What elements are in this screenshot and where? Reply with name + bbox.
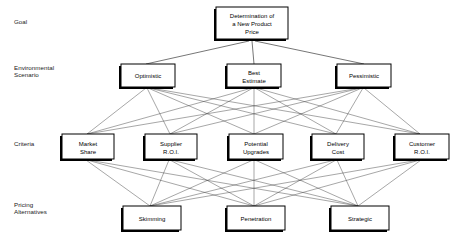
node-market-share-box — [62, 134, 114, 159]
node-goal-line2: a New Product — [232, 21, 272, 27]
node-customer-roi-box — [395, 134, 449, 159]
link-delivery-cost-skimming — [150, 160, 335, 206]
node-skimming-line1: Skimming — [139, 216, 166, 222]
node-goal-line3: Price — [245, 29, 259, 35]
node-customer-roi[interactable]: Customer R.O.I. — [393, 134, 449, 161]
link-market-share-penetration — [87, 160, 254, 206]
link-goal-best-estimate — [252, 41, 254, 64]
node-goal[interactable]: Determination of a New Product Price — [214, 7, 288, 41]
node-penetration-line1: Penetration — [241, 216, 272, 222]
hierarchy-canvas: Goal Environmental Scenario Criteria Pri… — [0, 0, 457, 241]
node-supplier-roi-line1: Supplier — [160, 141, 182, 147]
node-penetration[interactable]: Penetration — [225, 206, 285, 232]
links-goal-to-scenario — [146, 41, 364, 64]
link-supplier-roi-skimming — [150, 160, 169, 206]
node-strategic-line1: Strategic — [348, 216, 372, 222]
node-customer-roi-line1: Customer — [409, 141, 435, 147]
node-goal-line1: Determination of — [230, 13, 275, 19]
link-customer-roi-penetration — [254, 160, 420, 206]
node-supplier-roi[interactable]: Supplier R.O.I. — [143, 134, 197, 161]
node-delivery-cost-line2: Cost — [332, 149, 345, 155]
level-label-goal: Goal — [14, 18, 27, 25]
node-optimistic-line1: Optimistic — [135, 73, 162, 79]
links-market-share-to-alternatives — [86, 160, 358, 206]
node-market-share[interactable]: Market Share — [60, 134, 114, 161]
link-best-estimate-supplier-roi — [170, 88, 253, 134]
level-label-pricing-alternatives-line1: Pricing — [14, 201, 34, 208]
link-supplier-roi-penetration — [170, 160, 254, 206]
link-optimistic-potential-upgrades — [148, 88, 254, 134]
node-delivery-cost-line1: Delivery — [327, 141, 349, 147]
level-label-criteria: Criteria — [14, 140, 35, 147]
links-potential-upgrades-to-alternatives — [150, 160, 358, 206]
node-supplier-roi-line2: R.O.I. — [163, 149, 179, 155]
node-pessimistic[interactable]: Pessimistic — [335, 64, 391, 89]
node-delivery-cost[interactable]: Delivery Cost — [310, 134, 364, 161]
link-pessimistic-delivery-cost — [336, 88, 363, 134]
link-optimistic-supplier-roi — [147, 88, 170, 134]
link-customer-roi-strategic — [358, 160, 421, 206]
node-delivery-cost-box — [312, 134, 364, 159]
level-label-goal-line1: Goal — [14, 18, 27, 25]
link-market-share-skimming — [86, 160, 150, 206]
node-best-estimate-line2: Estimate — [242, 78, 266, 84]
link-customer-roi-skimming — [150, 160, 419, 206]
node-market-share-line2: Share — [80, 149, 97, 155]
level-label-environmental-scenario-line2: Scenario — [14, 71, 39, 78]
node-potential-upgrades[interactable]: Potential Upgrades — [227, 134, 283, 161]
link-supplier-roi-strategic — [171, 160, 358, 206]
link-optimistic-market-share — [87, 88, 146, 134]
node-skimming[interactable]: Skimming — [121, 206, 181, 232]
node-potential-upgrades-line2: Upgrades — [243, 149, 269, 155]
link-best-estimate-market-share — [87, 88, 252, 134]
link-goal-pessimistic — [255, 41, 364, 64]
node-potential-upgrades-line1: Potential — [244, 141, 268, 147]
link-pessimistic-market-share — [87, 88, 360, 134]
links-optimistic-to-criteria — [87, 88, 420, 134]
node-potential-upgrades-box — [229, 134, 283, 159]
link-optimistic-customer-roi — [150, 88, 420, 134]
link-delivery-cost-penetration — [254, 160, 336, 206]
level-label-environmental-scenario: Environmental Scenario — [14, 64, 54, 78]
link-market-share-strategic — [88, 160, 358, 206]
level-label-pricing-alternatives: Pricing Alternatives — [14, 201, 47, 215]
link-best-estimate-customer-roi — [256, 88, 420, 134]
link-delivery-cost-strategic — [337, 160, 358, 206]
node-best-estimate-line1: Best — [248, 70, 260, 76]
level-label-environmental-scenario-line1: Environmental — [14, 64, 54, 71]
link-goal-optimistic — [146, 41, 249, 64]
link-pessimistic-supplier-roi — [170, 88, 361, 134]
link-best-estimate-delivery-cost — [255, 88, 336, 134]
ahp-hierarchy-diagram: Goal Environmental Scenario Criteria Pri… — [0, 0, 457, 241]
node-pessimistic-line1: Pessimistic — [349, 73, 379, 79]
node-optimistic[interactable]: Optimistic — [119, 64, 175, 89]
node-best-estimate-box — [227, 64, 281, 87]
link-potential-upgrades-skimming — [150, 160, 253, 206]
level-label-criteria-line1: Criteria — [14, 140, 35, 147]
node-customer-roi-line2: R.O.I. — [414, 149, 430, 155]
link-pessimistic-customer-roi — [364, 88, 420, 134]
node-market-share-line1: Market — [79, 141, 98, 147]
node-best-estimate[interactable]: Best Estimate — [225, 64, 281, 89]
level-label-pricing-alternatives-line2: Alternatives — [14, 208, 47, 215]
links-customer-roi-to-alternatives — [150, 160, 421, 206]
node-strategic[interactable]: Strategic — [329, 206, 389, 232]
node-supplier-roi-box — [145, 134, 197, 159]
